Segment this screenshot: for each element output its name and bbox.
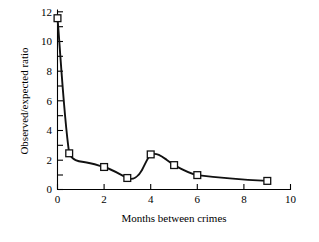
y-axis-title: Observed/expected ratio: [18, 47, 30, 155]
data-point: [147, 151, 154, 158]
x-tick-label: 10: [285, 193, 297, 205]
x-tick-label: 6: [195, 193, 201, 205]
y-tick-label: 0: [47, 183, 53, 195]
y-tick-label: 12: [41, 6, 52, 18]
y-tick-label: 10: [41, 35, 53, 47]
line-chart: 0 2 4 6 8 10 12 0 2 4 6 8 10: [0, 0, 319, 242]
y-tick-labels: 0 2 4 6 8 10 12: [41, 6, 53, 196]
x-tick-label: 8: [241, 193, 247, 205]
data-point: [54, 15, 61, 22]
data-point: [101, 164, 108, 171]
data-markers: [54, 15, 271, 185]
y-tick-label: 4: [47, 124, 53, 136]
data-point: [264, 178, 271, 185]
y-tick-label: 8: [47, 65, 53, 77]
data-series-line: [58, 18, 268, 181]
data-point: [66, 150, 73, 157]
x-axis-ticks: [58, 184, 291, 190]
x-tick-label: 2: [101, 193, 107, 205]
data-point: [124, 175, 131, 182]
x-tick-labels: 0 2 4 6 8 10: [55, 193, 297, 205]
y-tick-label: 6: [47, 95, 53, 107]
data-point: [194, 172, 201, 179]
x-axis-title: Months between crimes: [121, 212, 226, 224]
x-tick-label: 0: [55, 193, 61, 205]
x-tick-label: 4: [148, 193, 154, 205]
chart-figure: 0 2 4 6 8 10 12 0 2 4 6 8 10: [0, 0, 319, 242]
data-point: [171, 162, 178, 169]
y-tick-label: 2: [47, 154, 53, 166]
